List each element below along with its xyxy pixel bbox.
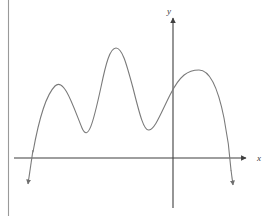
- math-graph-figure: x y: [0, 0, 275, 216]
- graph-canvas: x y: [0, 0, 275, 216]
- x-axis-label: x: [256, 153, 261, 163]
- curve-left-tail: [28, 150, 33, 184]
- curve-right-tail: [231, 170, 233, 185]
- y-axis-label: y: [166, 6, 171, 16]
- function-curve: [33, 48, 231, 170]
